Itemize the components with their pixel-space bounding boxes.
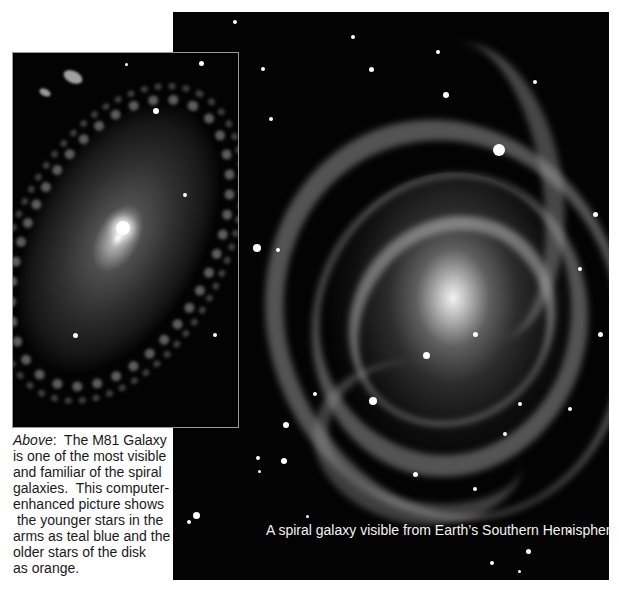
star [276,248,280,252]
star [598,332,603,337]
star [473,487,477,491]
caption-line: enhanced picture shows [13,496,183,512]
star [283,422,289,428]
caption-line: galaxies. This computer- [13,480,183,496]
star [233,20,237,24]
star [490,561,494,565]
southern-spiral-caption: A spiral galaxy visible from Earth’s Sou… [266,522,609,538]
star [306,515,309,518]
star [593,212,598,217]
star [413,472,418,477]
star [369,397,377,405]
star [503,432,507,436]
caption-text: The M81 Galaxy [57,432,167,448]
star [423,352,430,359]
star [518,570,521,573]
star [526,549,531,554]
star [351,35,355,39]
star [269,117,273,121]
caption-line: Above: The M81 Galaxy [13,432,183,448]
star [261,67,265,71]
star [533,80,537,84]
caption-line: arms as teal blue and the [13,528,183,544]
caption-line: is one of the most visible [13,448,183,464]
caption-line: the younger stars in the [13,512,183,528]
star [493,144,505,156]
star [199,61,204,66]
star [258,470,261,473]
star [473,332,478,337]
star [125,63,128,66]
star [187,520,191,524]
star [568,407,572,411]
star [578,267,582,271]
star [253,244,261,252]
star [518,402,522,406]
star [436,50,440,54]
m81-nucleus [116,221,130,235]
star [256,456,260,460]
companion-galaxy [38,87,52,98]
caption-line: older stars of the disk [13,544,183,560]
m81-galaxy-photo [12,52,239,428]
star [193,512,200,519]
star [369,67,374,72]
star [73,333,78,338]
m81-caption: Above: The M81 Galaxy is one of the most… [13,432,183,576]
star [153,108,159,114]
caption-line: as orange. [13,560,183,576]
star [213,333,217,337]
star [443,92,449,98]
star [183,193,187,197]
caption-line: and familiar of the spiral [13,464,183,480]
companion-galaxy [61,67,84,86]
star [281,458,287,464]
star [313,392,317,396]
caption-lead: Above [13,432,53,448]
